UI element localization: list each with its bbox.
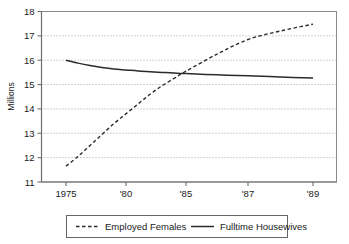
y-tick-label-17: 17 <box>24 30 35 41</box>
y-axis-title: Millions <box>6 82 16 110</box>
legend: Employed Females Fulltime Housewives <box>67 216 308 238</box>
line-chart: 1817161514131211 1975'80'85'87'89 Millio… <box>0 0 349 244</box>
chart-svg: 1817161514131211 1975'80'85'87'89 Millio… <box>0 0 349 244</box>
y-tick-label-18: 18 <box>24 6 35 17</box>
x-tick-label-1987: '87 <box>242 188 254 199</box>
x-tick-label-1989: '89 <box>307 188 319 199</box>
x-tick-label-1985: '85 <box>180 188 192 199</box>
y-tick-label-13: 13 <box>24 128 35 139</box>
x-tick-label-1975: 1975 <box>55 188 76 199</box>
y-tick-label-14: 14 <box>24 103 35 114</box>
legend-label-fulltime-housewives: Fulltime Housewives <box>220 221 307 232</box>
y-tick-label-15: 15 <box>24 79 35 90</box>
plot-area-border <box>42 12 337 183</box>
x-tick-label-1980: '80 <box>120 188 132 199</box>
legend-label-employed-females: Employed Females <box>105 221 187 232</box>
y-tick-label-12: 12 <box>24 152 35 163</box>
y-tick-label-11: 11 <box>25 177 35 188</box>
y-tick-label-16: 16 <box>24 55 35 66</box>
